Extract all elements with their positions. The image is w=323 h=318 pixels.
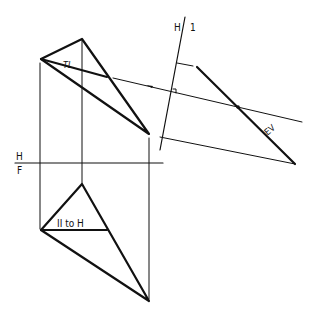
arrow-icon xyxy=(146,85,153,88)
label-fold-hf-top: H xyxy=(16,151,23,162)
top-view-triangle xyxy=(41,39,149,134)
label-parallel-to-h: II to H xyxy=(57,218,84,229)
fold-line-h1 xyxy=(160,17,185,150)
label-fold-h1-right: 1 xyxy=(190,22,196,33)
label-fold-h1-left: H xyxy=(174,22,181,33)
front-view-triangle xyxy=(41,184,149,301)
point-on-edge xyxy=(236,105,240,109)
edge-view-diagram: H F H 1 TL II to H EV xyxy=(0,0,323,318)
diagram-canvas: H F H 1 TL II to H EV xyxy=(0,0,323,318)
projector-b-aux xyxy=(177,63,193,66)
label-fold-hf-bottom: F xyxy=(17,165,22,176)
projector-c-aux xyxy=(160,137,295,164)
label-true-length: TL xyxy=(63,60,73,70)
projector-tl xyxy=(113,78,302,122)
edge-view-line xyxy=(197,67,295,164)
